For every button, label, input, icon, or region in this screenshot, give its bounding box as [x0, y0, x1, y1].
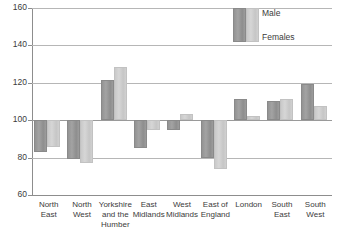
- gridline: [32, 195, 332, 196]
- y-tick-label: 140: [0, 40, 27, 49]
- bar-male: [101, 80, 114, 120]
- legend: Male Females: [233, 6, 333, 44]
- bar-female: [180, 114, 193, 121]
- bar-female: [147, 120, 160, 130]
- y-tick-mark: [28, 83, 32, 84]
- bar-female: [280, 99, 293, 121]
- bar-group: [99, 8, 132, 195]
- bar-male: [234, 99, 247, 121]
- legend-label-male: Male: [262, 8, 280, 18]
- bar-female: [247, 116, 260, 121]
- bar-male: [167, 120, 180, 129]
- bar-group: [32, 8, 65, 195]
- y-tick-mark: [28, 8, 32, 9]
- legend-swatch-male: [233, 8, 246, 42]
- y-tick-mark: [28, 120, 32, 121]
- legend-label-female: Females: [262, 32, 295, 42]
- y-tick-mark: [28, 158, 32, 159]
- y-tick-label: 120: [0, 78, 27, 87]
- bar-group: [65, 8, 98, 195]
- bar-female: [47, 120, 60, 147]
- bar-group: [132, 8, 165, 195]
- y-tick-mark: [28, 45, 32, 46]
- bar-female: [80, 120, 93, 163]
- x-axis-label-line: Humber: [95, 220, 136, 230]
- y-tick-label: 60: [0, 190, 27, 199]
- bar-group: [199, 8, 232, 195]
- x-axis-label-line: South: [295, 200, 336, 210]
- bar-male: [67, 120, 80, 159]
- bar-chart: 1601401201008060 NorthEastNorthWestYorks…: [0, 0, 339, 239]
- bar-female: [214, 120, 227, 169]
- bar-female: [114, 67, 127, 120]
- bar-female: [314, 106, 327, 120]
- y-tick-label: 80: [0, 153, 27, 162]
- bar-male: [201, 120, 214, 157]
- x-axis-label-line: West: [295, 210, 336, 220]
- x-axis-label-line: England: [195, 210, 236, 220]
- bar-group: [165, 8, 198, 195]
- x-axis-label: SouthWest: [295, 200, 336, 220]
- bar-male: [267, 101, 280, 121]
- bar-male: [134, 120, 147, 148]
- y-tick-mark: [28, 195, 32, 196]
- y-tick-label: 100: [0, 115, 27, 124]
- bar-male: [301, 84, 314, 120]
- bar-male: [34, 120, 47, 152]
- y-tick-label: 160: [0, 3, 27, 12]
- legend-swatch-female: [246, 8, 259, 42]
